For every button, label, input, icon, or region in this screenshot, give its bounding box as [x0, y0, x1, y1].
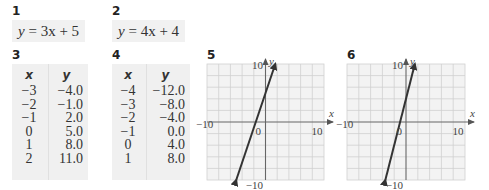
x-axis-label: x — [328, 107, 334, 119]
x-cell: 2 — [12, 152, 46, 166]
origin-label: 0 — [256, 125, 262, 137]
xy-table-4: x −4 −3 −2 −1 0 1 y −12.0 −8.0 −4.0 0.0 … — [112, 64, 190, 180]
y-cell: −12.0 — [146, 84, 185, 98]
equation-2-rhs: = 4x + 4 — [125, 23, 179, 39]
y-cell: 4.0 — [146, 138, 185, 152]
problem-number-4: 4 — [112, 48, 120, 62]
xmax-label: 10 — [453, 125, 465, 137]
y-cell: 0.0 — [146, 125, 185, 139]
y-cell: 5.0 — [50, 125, 83, 139]
y-cell: −4.0 — [50, 84, 83, 98]
x-cell: −2 — [12, 98, 46, 112]
y-cell: 11.0 — [50, 152, 83, 166]
ymin-label: −10 — [246, 179, 264, 190]
ymin-label: −10 — [386, 179, 404, 190]
line-graph-5: −10 10 0 10 −10 y x — [195, 55, 345, 190]
y-cell: 8.0 — [50, 138, 83, 152]
equation-2: y = 4x + 4 — [112, 20, 185, 42]
y-column: y −12.0 −8.0 −4.0 0.0 4.0 8.0 — [146, 64, 185, 180]
equation-1-rhs: = 3x + 5 — [25, 23, 79, 39]
y-cell: −4.0 — [146, 111, 185, 125]
x-header: x — [112, 66, 144, 84]
x-column: x −3 −2 −1 0 1 2 — [12, 64, 46, 180]
x-axis-label: x — [469, 107, 475, 119]
x-cell: −1 — [112, 125, 144, 139]
x-cell: 1 — [12, 138, 46, 152]
xmax-label: 10 — [312, 125, 324, 137]
y-cell: 2.0 — [50, 111, 83, 125]
y-header: y — [50, 66, 83, 84]
y-axis-label: y — [409, 55, 415, 67]
y-header: y — [146, 66, 185, 84]
ymax-label: 10 — [392, 59, 404, 71]
x-cell: 0 — [12, 125, 46, 139]
x-column: x −4 −3 −2 −1 0 1 — [112, 64, 144, 180]
xy-table-3: x −3 −2 −1 0 1 2 y −4.0 −1.0 2.0 5.0 8.0… — [12, 64, 88, 180]
problem-number-3: 3 — [12, 48, 20, 62]
x-cell: 1 — [112, 152, 144, 166]
x-header: x — [12, 66, 46, 84]
ymax-label: 10 — [252, 59, 264, 71]
problem-number-2: 2 — [112, 4, 120, 18]
y-axis-label: y — [268, 55, 274, 67]
x-cell: −2 — [112, 111, 144, 125]
x-cell: −1 — [12, 111, 46, 125]
y-column: y −4.0 −1.0 2.0 5.0 8.0 11.0 — [50, 64, 83, 180]
y-cell: −1.0 — [50, 98, 83, 112]
xmin-label: −10 — [336, 118, 354, 130]
y-cell: 8.0 — [146, 152, 185, 166]
x-cell: −3 — [112, 98, 144, 112]
equation-2-lhs: y — [118, 23, 125, 39]
equation-1: y = 3x + 5 — [12, 20, 85, 42]
column-divider — [48, 64, 49, 180]
xmin-label: −10 — [196, 118, 214, 130]
x-cell: 0 — [112, 138, 144, 152]
x-cell: −4 — [112, 84, 144, 98]
problem-number-1: 1 — [12, 4, 20, 18]
line-graph-6: −10 10 0 10 −10 y x — [335, 55, 489, 190]
y-cell: −8.0 — [146, 98, 185, 112]
equation-1-lhs: y — [18, 23, 25, 39]
x-cell: −3 — [12, 84, 46, 98]
origin-label: 0 — [397, 125, 403, 137]
